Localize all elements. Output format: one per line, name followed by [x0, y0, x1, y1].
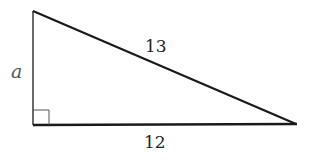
right-triangle-diagram: a 13 12 [0, 0, 314, 167]
horizontal-leg-label: 12 [144, 132, 166, 152]
right-angle-marker [33, 110, 49, 125]
hypotenuse [33, 11, 296, 124]
horizontal-leg [33, 124, 297, 125]
vertical-leg-label: a [11, 60, 22, 82]
hypotenuse-label: 13 [145, 36, 167, 56]
